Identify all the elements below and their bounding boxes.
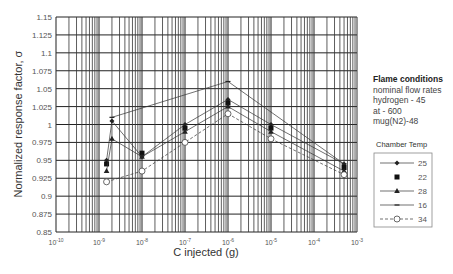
svg-text:1.15: 1.15 — [36, 13, 52, 22]
legend-title: Chamber Temp — [376, 140, 427, 149]
svg-text:0.875: 0.875 — [32, 210, 53, 219]
svg-text:1.025: 1.025 — [32, 103, 53, 112]
svg-text:1.125: 1.125 — [32, 31, 53, 40]
y-axis-title: Normalized response factor, σ — [12, 50, 24, 197]
flame-line-1: nominal flow rates — [373, 85, 442, 95]
svg-text:10-3: 10-3 — [351, 237, 363, 246]
flame-line-3: at - 600 — [373, 106, 402, 116]
svg-text:1.05: 1.05 — [36, 85, 52, 94]
chart: 0.850.8750.90.9250.950.97511.0251.051.07… — [0, 0, 453, 274]
svg-text:0.95: 0.95 — [36, 156, 52, 165]
svg-text:10-5: 10-5 — [265, 237, 277, 246]
x-axis-title: C injected (g) — [173, 246, 238, 258]
svg-text:10-6: 10-6 — [222, 237, 234, 246]
flame-line-4: mug(N2)-48 — [373, 116, 418, 126]
flame-line-2: hydrogen - 45 — [373, 95, 425, 105]
svg-text:10-9: 10-9 — [93, 237, 105, 246]
svg-text:28: 28 — [418, 187, 427, 196]
y-axis-ticks: 0.850.8750.90.9250.950.97511.0251.051.07… — [32, 13, 53, 237]
grid-lines — [56, 17, 357, 232]
flame-conditions-heading: Flame conditions — [373, 74, 443, 84]
svg-text:10-7: 10-7 — [179, 237, 191, 246]
svg-text:10-4: 10-4 — [308, 237, 320, 246]
svg-text:10-8: 10-8 — [136, 237, 148, 246]
svg-text:1.075: 1.075 — [32, 67, 53, 76]
svg-text:0.925: 0.925 — [32, 174, 53, 183]
x-axis-ticks: 10-1010-910-810-710-610-510-410-3 — [48, 237, 363, 246]
svg-text:16: 16 — [418, 201, 427, 210]
svg-text:1: 1 — [48, 121, 53, 130]
svg-text:25: 25 — [418, 159, 427, 168]
svg-text:34: 34 — [418, 215, 427, 224]
svg-text:0.85: 0.85 — [36, 228, 52, 237]
svg-text:22: 22 — [418, 173, 427, 182]
svg-text:0.9: 0.9 — [41, 192, 53, 201]
svg-text:10-10: 10-10 — [48, 237, 63, 246]
flame-conditions: Flame conditions nominal flow rates hydr… — [373, 74, 443, 127]
svg-text:0.975: 0.975 — [32, 138, 53, 147]
svg-text:1.1: 1.1 — [41, 49, 53, 58]
